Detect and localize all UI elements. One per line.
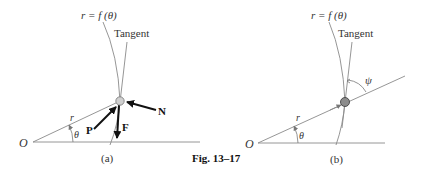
panel-a: r = f (θ) Tangent O r θ N P F (a) bbox=[19, 9, 200, 165]
psi-label-b: ψ bbox=[365, 74, 372, 86]
force-F-arrow bbox=[117, 105, 119, 138]
force-F-label: F bbox=[122, 121, 129, 133]
origin-label-b: O bbox=[245, 137, 254, 151]
tangent-label-a: Tangent bbox=[114, 27, 149, 39]
radius-arrow-b bbox=[330, 105, 341, 110]
radius-label-b: r bbox=[296, 112, 300, 123]
force-N-label: N bbox=[158, 105, 166, 117]
panel-b: r = f (θ) Tangent O r θ ψ (b) bbox=[245, 9, 405, 166]
curve-label-a: r = f (θ) bbox=[81, 9, 117, 22]
particle-b bbox=[341, 98, 350, 107]
force-N-arrow bbox=[127, 102, 156, 110]
force-P-label: P bbox=[86, 124, 93, 136]
curve-label-b: r = f (θ) bbox=[311, 9, 347, 22]
particle-a bbox=[116, 97, 124, 105]
psi-arc-b bbox=[348, 80, 366, 92]
theta-arc-a bbox=[69, 125, 73, 142]
theta-label-b: θ bbox=[299, 130, 304, 141]
origin-label-a: O bbox=[19, 136, 28, 150]
panel-b-label: (b) bbox=[330, 153, 343, 166]
radius-label-a: r bbox=[70, 112, 74, 123]
figure-canvas: r = f (θ) Tangent O r θ N P F (a) Fig. 1… bbox=[0, 0, 426, 176]
figure-caption: Fig. 13–17 bbox=[192, 152, 241, 164]
panel-a-label: (a) bbox=[101, 152, 114, 165]
tangent-label-b: Tangent bbox=[338, 27, 373, 39]
force-P-arrow bbox=[94, 107, 116, 129]
theta-arc-b bbox=[294, 126, 298, 143]
theta-label-a: θ bbox=[74, 129, 79, 140]
